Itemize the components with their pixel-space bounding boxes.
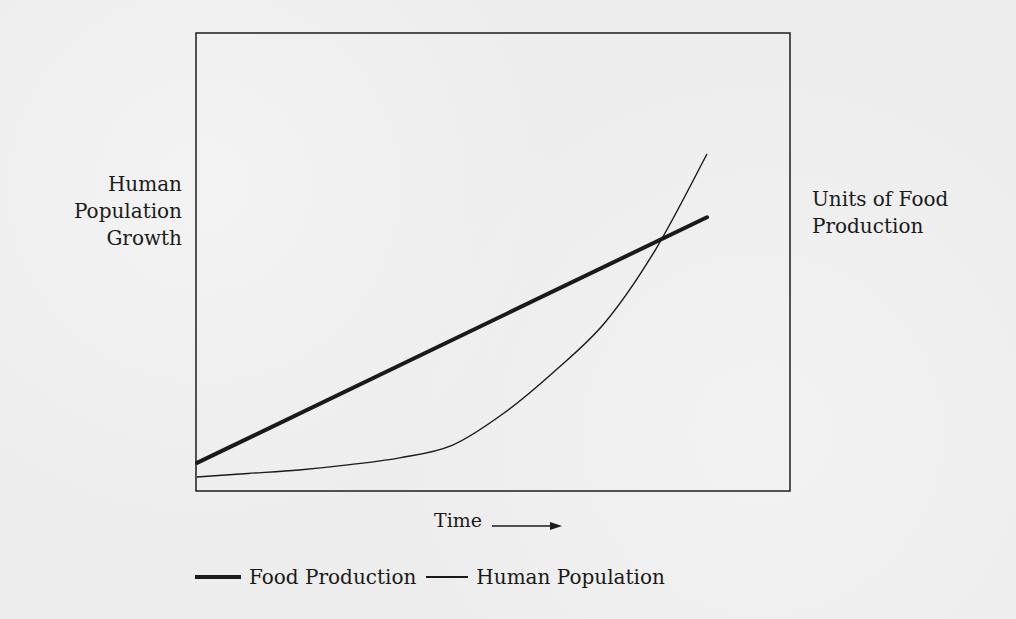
legend-label: Human Population: [476, 564, 665, 590]
legend-item-food-production: Food Production: [195, 564, 416, 590]
legend-item-human-population: Human Population: [426, 564, 665, 590]
food-production-line: [197, 217, 707, 463]
right-axis-label-line: Units of Food: [812, 186, 1012, 213]
left-axis-label-line: Human: [60, 171, 182, 198]
right-axis-label-line: Production: [812, 213, 1012, 240]
left-axis-label: Human Population Growth: [60, 171, 182, 252]
legend-label: Food Production: [249, 564, 416, 590]
chart-legend: Food Production Human Population: [195, 564, 675, 590]
thin-line-swatch-icon: [426, 576, 468, 578]
x-axis-label: Time: [434, 509, 562, 531]
x-axis-label-text: Time: [434, 509, 482, 531]
right-axis-label: Units of Food Production: [812, 186, 1012, 240]
left-axis-label-line: Growth: [60, 225, 182, 252]
right-arrow-icon: [492, 514, 562, 526]
left-axis-label-line: Population: [60, 198, 182, 225]
human-population-curve: [197, 154, 707, 477]
thick-line-swatch-icon: [195, 575, 241, 579]
